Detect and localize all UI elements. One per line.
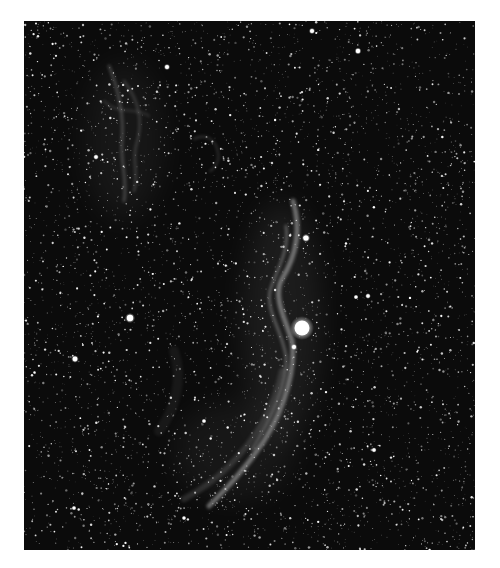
- bright-star-right-low: [372, 448, 375, 451]
- bright-star-top: [310, 29, 314, 33]
- bright-star-far-left: [73, 357, 78, 362]
- bright-star-upper: [303, 235, 308, 240]
- bright-star-main: [295, 321, 310, 336]
- bright-star-bottom: [183, 517, 186, 520]
- bright-star-mid: [202, 419, 205, 422]
- bright-star-near-nebula: [292, 345, 296, 349]
- bright-star-low-left: [72, 506, 75, 509]
- bright-star-left: [127, 315, 133, 321]
- astrophotograph: [24, 21, 475, 550]
- bright-star-right-2: [354, 295, 357, 298]
- bright-star-top-right: [356, 49, 360, 53]
- star-field-canvas: [24, 21, 475, 550]
- page: [0, 0, 500, 568]
- bright-star-right-1: [366, 294, 370, 298]
- bright-star-top-left: [165, 65, 169, 69]
- bright-star-left-top: [94, 155, 98, 159]
